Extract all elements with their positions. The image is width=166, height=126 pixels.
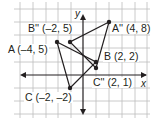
label-c-double-prime: C'' (2, 1) (92, 77, 133, 88)
label-b: B (2, 2) (103, 51, 139, 62)
label-a-double-prime: A'' (4, 8) (111, 23, 151, 34)
label-a: A (–4, 5) (7, 44, 49, 55)
label-c: C (–2, –2) (24, 92, 73, 103)
label-b-double-prime: B'' (–2, 5) (27, 23, 73, 34)
x-axis-label: x (141, 79, 146, 89)
y-axis-label: y (75, 9, 80, 19)
coordinate-plane (0, 0, 166, 126)
